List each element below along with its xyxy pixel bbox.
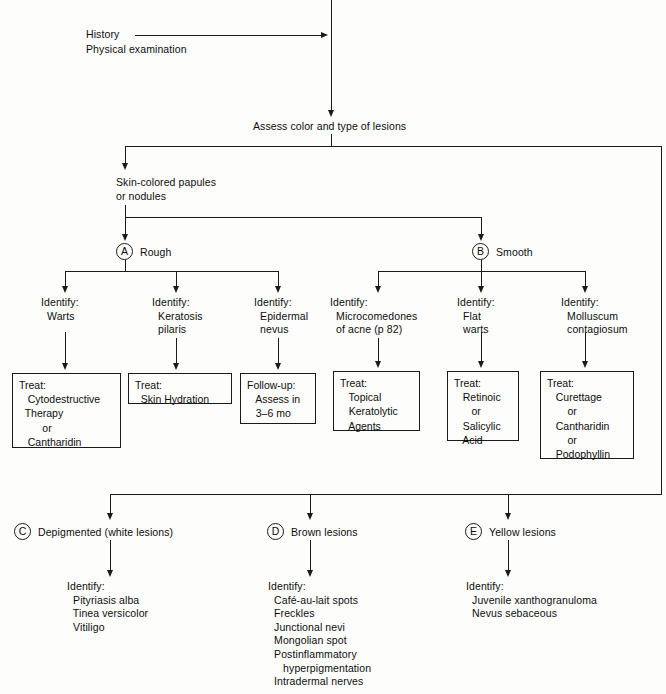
branch-d-to-identify-line <box>310 540 311 572</box>
branch-a-fanout-bar <box>65 271 278 272</box>
rough-path-1-treatment-text: Treat: Cytodestructive Therapy or Cantha… <box>13 374 120 453</box>
branch-c-to-identify-line <box>110 540 111 572</box>
branch-a-arrowhead <box>122 234 128 241</box>
smooth-path-3-treatment-text: Treat: Curettage or Cantharidin or Podop… <box>541 372 633 465</box>
branch-d-marker: D <box>267 523 284 540</box>
rough-path-2-treatment-box: Treat: Skin Hydration <box>128 373 232 404</box>
branch-c-to-identify-arrowhead <box>107 570 113 577</box>
entry-physical-exam-label: Physical examination <box>86 43 187 57</box>
smooth-path-2-arrowhead <box>478 286 484 293</box>
entry-connector-line <box>135 35 323 36</box>
smooth-path-2-treatment-box: Treat: Retinoic or Salicylic Acid <box>447 371 519 441</box>
skin-colored-arrowhead <box>122 163 128 170</box>
color-branch-riser-line <box>661 146 662 495</box>
rough-path-3-to-box-line <box>278 338 279 365</box>
rough-path-1-to-box-arrowhead <box>62 363 68 370</box>
branch-d-drop-line <box>310 494 311 515</box>
smooth-path-1-treatment-box: Treat: Topical Keratolytic Agents <box>333 371 420 431</box>
rough-smooth-split-bar <box>125 217 482 218</box>
skin-colored-label-line2: or nodules <box>116 190 166 204</box>
branch-d-identify-list: Identify: Café-au-lait spots Freckles Ju… <box>268 580 371 689</box>
branch-e-label: Yellow lesions <box>489 526 556 540</box>
branch-c-label: Depigmented (white lesions) <box>38 526 173 540</box>
smooth-path-3-to-box-line <box>585 332 586 363</box>
smooth-path-2-to-box-line <box>481 332 482 363</box>
branch-a-marker: A <box>116 243 133 260</box>
branch-b-arrowhead <box>478 234 484 241</box>
top-split-bar <box>125 146 662 147</box>
smooth-path-2-treatment-text: Treat: Retinoic or Salicylic Acid <box>448 372 518 451</box>
branch-c-marker: C <box>14 523 31 540</box>
branch-e-to-identify-line <box>508 540 509 572</box>
branch-d-label: Brown lesions <box>291 526 358 540</box>
branch-c-drop-line <box>110 494 111 515</box>
smooth-path-3-to-box-arrowhead <box>582 361 588 368</box>
branch-b-marker: B <box>472 243 489 260</box>
rough-path-3-to-box-arrowhead <box>275 363 281 370</box>
smooth-path-1-identify: Identify: Microcomedones of acne (p 82) <box>330 296 417 337</box>
branch-d-to-identify-arrowhead <box>307 570 313 577</box>
assess-node-label: Assess color and type of lesions <box>253 120 406 134</box>
smooth-path-1-treatment-text: Treat: Topical Keratolytic Agents <box>334 372 419 437</box>
smooth-path-2-identify: Identify: Flat warts <box>457 296 495 337</box>
rough-path-3-identify: Identify: Epidermal nevus <box>254 296 308 337</box>
smooth-path-3-treatment-box: Treat: Curettage or Cantharidin or Podop… <box>540 371 634 459</box>
smooth-path-1-to-box-arrowhead <box>375 361 381 368</box>
color-branch-split-bar <box>110 494 662 495</box>
flowchart-canvas: History Physical examination Assess colo… <box>0 0 666 694</box>
rough-path-2-treatment-text: Treat: Skin Hydration <box>129 374 231 410</box>
branch-d-arrowhead <box>307 513 313 520</box>
branch-e-arrowhead <box>505 513 511 520</box>
smooth-path-3-arrowhead <box>582 286 588 293</box>
smooth-path-2-to-box-arrowhead <box>478 361 484 368</box>
entry-connector-arrowhead <box>321 32 328 38</box>
rough-path-1-identify: Identify: Warts <box>41 296 79 323</box>
rough-path-2-arrowhead <box>173 286 179 293</box>
branch-e-marker: E <box>465 523 482 540</box>
rough-path-2-to-box-arrowhead <box>173 363 179 370</box>
smooth-path-1-to-box-line <box>378 338 379 363</box>
rough-path-1-to-box-line <box>65 332 66 365</box>
branch-c-arrowhead <box>107 513 113 520</box>
rough-path-1-arrowhead <box>62 286 68 293</box>
branch-a-label: Rough <box>140 246 171 260</box>
main-trunk-line <box>331 0 332 112</box>
skin-colored-label-line1: Skin-colored papules <box>116 176 216 190</box>
branch-e-identify-list: Identify: Juvenile xanthogranuloma Nevus… <box>466 580 597 621</box>
smooth-path-1-arrowhead <box>375 286 381 293</box>
entry-history-label: History <box>86 28 119 42</box>
branch-e-drop-line <box>508 494 509 515</box>
branch-b-label: Smooth <box>496 246 533 260</box>
branch-e-to-identify-arrowhead <box>505 570 511 577</box>
rough-path-2-identify: Identify: Keratosis pilaris <box>152 296 203 337</box>
rough-path-1-treatment-box: Treat: Cytodestructive Therapy or Cantha… <box>12 373 121 448</box>
rough-path-2-to-box-line <box>176 338 177 365</box>
smooth-path-3-identify: Identify: Molluscum contagiosum <box>561 296 628 337</box>
rough-path-3-arrowhead <box>275 286 281 293</box>
rough-path-3-treatment-box: Follow-up: Assess in 3–6 mo <box>240 373 316 424</box>
branch-c-identify-list: Identify: Pityriasis alba Tinea versicol… <box>67 580 148 634</box>
main-trunk-arrowhead <box>328 110 334 117</box>
rough-path-3-treatment-text: Follow-up: Assess in 3–6 mo <box>241 374 315 425</box>
